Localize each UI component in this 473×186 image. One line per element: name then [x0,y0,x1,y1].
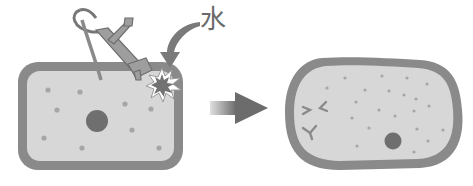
right-arrow-icon [210,92,268,124]
cell-cytoplasm-swollen [294,65,453,161]
nucleus-displaced [385,133,402,150]
swollen-cell [285,57,463,170]
nucleus [86,110,108,132]
curved-arrow-icon [160,22,200,68]
diagram-canvas [0,0,473,186]
water-label: 水 [200,6,226,32]
